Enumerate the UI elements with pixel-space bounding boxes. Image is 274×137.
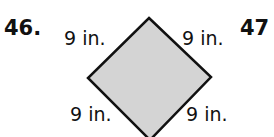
rhombus-shape [0, 0, 274, 137]
side-label-bottom-left: 9 in. [70, 105, 112, 124]
problem-figure: 46. 47 9 in. 9 in. 9 in. 9 in. [0, 0, 274, 137]
side-label-top-right: 9 in. [182, 29, 224, 48]
side-label-top-left: 9 in. [64, 29, 106, 48]
side-label-bottom-right: 9 in. [186, 105, 228, 124]
